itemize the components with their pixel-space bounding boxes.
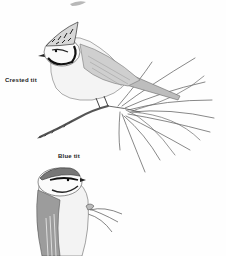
blue-tit (37, 168, 94, 256)
caption-blue-tit: Blue tit (58, 153, 80, 159)
blue-tit-twig (86, 208, 122, 232)
top-fragment (70, 1, 86, 6)
bird-illustrations (0, 0, 226, 256)
illustration-page: Crested tit Blue tit (0, 0, 226, 256)
caption-crested-tit: Crested tit (5, 77, 37, 83)
